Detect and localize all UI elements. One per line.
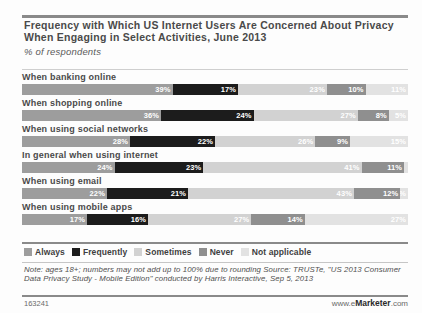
- bar-segment-not-applicable: 2%: [400, 188, 408, 199]
- bar-segment-always: 24%: [22, 162, 115, 173]
- stacked-bar: 22%21%43%12%2%: [22, 188, 408, 199]
- bar-segment-frequently: 16%: [87, 214, 148, 225]
- chart-subtitle: % of respondents: [24, 46, 408, 57]
- bar-segment-always: 36%: [22, 110, 161, 121]
- bar-segment-always: 28%: [22, 136, 130, 147]
- bar-segment-never: 14%: [251, 214, 305, 225]
- bar-segment-always: 22%: [22, 188, 107, 199]
- brand-suffix: .com: [391, 299, 408, 308]
- bar-segment-sometimes: 27%: [254, 110, 358, 121]
- legend-label: Frequently: [83, 247, 127, 257]
- bar-segment-sometimes: 43%: [188, 188, 354, 199]
- bar-segment-never: 11%: [362, 162, 404, 173]
- legend-label: Always: [35, 247, 65, 257]
- chart-card: Frequency with Which US Internet Users A…: [0, 0, 422, 313]
- bar-segment-never: 8%: [358, 110, 389, 121]
- stacked-bar: 36%24%27%8%5%: [22, 110, 408, 121]
- stacked-bar: 24%23%41%11%: [22, 162, 408, 173]
- bar-segment-frequently: 23%: [115, 162, 204, 173]
- legend-swatch-icon: [24, 248, 32, 256]
- legend-swatch-icon: [199, 248, 207, 256]
- legend-item-not-applicable[interactable]: Not applicable: [241, 247, 312, 257]
- bar-segment-sometimes: 26%: [215, 136, 315, 147]
- bar-row-label: When using social networks: [22, 123, 408, 136]
- bar-row-label: When using email: [22, 175, 408, 188]
- legend-item-sometimes[interactable]: Sometimes: [134, 247, 191, 257]
- bar-segment-not-applicable: 5%: [389, 110, 408, 121]
- bar-segment-frequently: 24%: [161, 110, 254, 121]
- bar-segment-not-applicable: 11%: [366, 84, 408, 95]
- bar-segment-sometimes: 23%: [238, 84, 327, 95]
- stacked-bar: 28%22%26%9%15%: [22, 136, 408, 147]
- bar-segment-never: 9%: [315, 136, 350, 147]
- legend-swatch-icon: [72, 248, 80, 256]
- bar-segment-always: 17%: [22, 214, 87, 225]
- bar-row: When using email22%21%43%12%2%: [22, 175, 408, 199]
- legend-swatch-icon: [241, 248, 249, 256]
- page-title: Frequency with Which US Internet Users A…: [24, 20, 408, 43]
- bar-row-label: When shopping online: [22, 97, 408, 110]
- bar-segment-never: 12%: [354, 188, 400, 199]
- legend-item-never[interactable]: Never: [199, 247, 234, 257]
- bar-segment-never: 10%: [327, 84, 366, 95]
- bar-segment-sometimes: 27%: [148, 214, 251, 225]
- stacked-bar: 17%16%27%14%27%: [22, 214, 408, 225]
- footer-rule: [22, 295, 408, 297]
- legend-label: Sometimes: [145, 247, 191, 257]
- chart-legend: AlwaysFrequentlySometimesNeverNot applic…: [24, 247, 408, 257]
- bar-row: When using social networks28%22%26%9%15%: [22, 123, 408, 147]
- legend-label: Never: [210, 247, 234, 257]
- bar-segment-not-applicable: [404, 162, 408, 173]
- bar-row: When shopping online36%24%27%8%5%: [22, 97, 408, 121]
- brand-name: Marketer: [355, 298, 390, 308]
- legend-swatch-icon: [134, 248, 142, 256]
- bar-segment-frequently: 21%: [107, 188, 188, 199]
- legend-rule: [22, 242, 408, 244]
- source-note: Note: ages 18+; numbers may not add up t…: [24, 265, 408, 283]
- bar-segment-frequently: 22%: [130, 136, 215, 147]
- bar-row-label: When banking online: [22, 71, 408, 84]
- top-rule: [22, 15, 408, 18]
- note-rule: [22, 262, 408, 263]
- brand-prefix: www.e: [332, 299, 356, 308]
- legend-item-frequently[interactable]: Frequently: [72, 247, 127, 257]
- bar-segment-frequently: 17%: [173, 84, 239, 95]
- chart-footer: 163241 www.eMarketer.com: [24, 298, 408, 308]
- legend-label: Not applicable: [252, 247, 312, 257]
- bar-segment-always: 39%: [22, 84, 173, 95]
- subtitle-rule: [22, 69, 408, 70]
- bar-rows: When banking online39%17%23%10%11%When s…: [22, 71, 408, 227]
- bar-segment-sometimes: 41%: [203, 162, 361, 173]
- bar-segment-not-applicable: 27%: [305, 214, 408, 225]
- bar-row: When banking online39%17%23%10%11%: [22, 71, 408, 95]
- bar-segment-not-applicable: 15%: [350, 136, 408, 147]
- chart-header: Frequency with Which US Internet Users A…: [24, 20, 408, 57]
- emarketer-brand: www.eMarketer.com: [332, 298, 408, 308]
- bar-row-label: When using mobile apps: [22, 201, 408, 214]
- stacked-bar: 39%17%23%10%11%: [22, 84, 408, 95]
- bar-row: In general when using internet24%23%41%1…: [22, 149, 408, 173]
- bar-row-label: In general when using internet: [22, 149, 408, 162]
- legend-item-always[interactable]: Always: [24, 247, 65, 257]
- bar-row: When using mobile apps17%16%27%14%27%: [22, 201, 408, 225]
- chart-id: 163241: [24, 299, 49, 308]
